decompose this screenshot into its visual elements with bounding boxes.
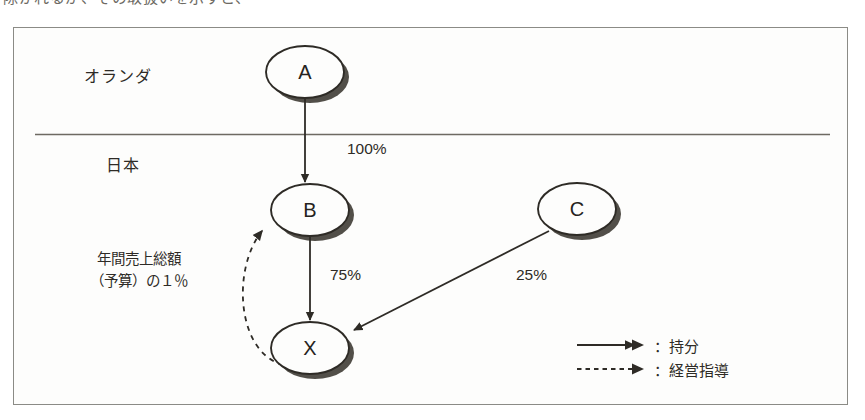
- legend-solid-arrow-icon: [576, 336, 650, 354]
- legend-item-holdings: ：持分: [576, 333, 729, 357]
- region-label-japan: 日本: [106, 152, 140, 176]
- annotation-line-2: （予算）の１％: [90, 270, 188, 292]
- legend-item-management-guidance: ：経営指導: [576, 357, 729, 381]
- node-X[interactable]: [271, 322, 349, 374]
- edge-label-c-to-x: 25%: [516, 266, 547, 284]
- node-C[interactable]: [538, 183, 616, 235]
- region-label-netherlands: オランダ: [84, 63, 152, 87]
- edge-label-a-to-b: 100%: [347, 140, 387, 158]
- node-A[interactable]: [266, 46, 344, 98]
- annotation-management-fee: 年間売上総額 （予算）の１％: [90, 248, 188, 292]
- figure-stage: 除かれるが、その取扱いを示すと、: [0, 0, 865, 420]
- node-B[interactable]: [271, 184, 349, 236]
- legend: ：持分 ：経営指導: [576, 333, 729, 381]
- legend-label-holdings: ：持分: [654, 335, 699, 356]
- legend-dashed-arrow-icon: [576, 360, 650, 378]
- legend-label-management-guidance: ：経営指導: [654, 359, 729, 380]
- annotation-line-1: 年間売上総額: [90, 248, 188, 270]
- edge-label-b-to-x: 75%: [330, 266, 361, 284]
- nodes: [266, 46, 616, 374]
